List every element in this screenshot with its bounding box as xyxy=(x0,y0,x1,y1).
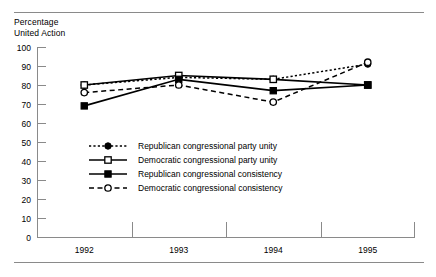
legend-marker xyxy=(105,157,111,163)
x-axis-tick-label: 1993 xyxy=(149,245,209,255)
y-axis-tick-label: 70 xyxy=(5,100,31,110)
y-axis-tick-label: 80 xyxy=(5,81,31,91)
data-point-marker xyxy=(176,74,182,80)
y-axis-title: Percentage United Action xyxy=(14,17,65,38)
plot-right-tick xyxy=(414,222,415,237)
data-point-marker xyxy=(81,89,87,95)
x-axis-tick-mark xyxy=(226,222,227,237)
legend-swatch xyxy=(88,167,128,181)
data-point-marker xyxy=(270,88,276,94)
data-point-marker xyxy=(365,82,371,88)
legend-label: Republican congressional party unity xyxy=(138,141,277,151)
series-4 xyxy=(81,59,371,105)
y-axis-tick-mark xyxy=(37,142,46,143)
y-axis-tick-label: 60 xyxy=(5,119,31,129)
data-point-marker xyxy=(270,76,276,82)
y-axis-tick-label: 30 xyxy=(5,176,31,186)
legend-marker xyxy=(105,143,111,149)
y-axis-tick-label: 20 xyxy=(5,195,31,205)
data-point-marker xyxy=(270,76,276,82)
y-axis-tick-label: 10 xyxy=(5,214,31,224)
y-axis-tick-mark xyxy=(37,47,46,48)
y-axis-tick-mark xyxy=(37,199,46,200)
data-point-marker xyxy=(365,61,371,67)
series-line xyxy=(84,79,368,106)
y-axis-tick-mark xyxy=(37,66,46,67)
series-2 xyxy=(81,72,371,88)
y-axis-tick-mark xyxy=(37,104,46,105)
legend-marker xyxy=(105,185,111,191)
legend-item-3: Republican congressional consistency xyxy=(88,167,283,181)
bottom-rule xyxy=(14,262,424,263)
y-axis-tick-label: 90 xyxy=(5,62,31,72)
legend: Republican congressional party unityDemo… xyxy=(88,139,283,195)
legend-swatch xyxy=(88,153,128,167)
figure: Percentage United Action 010203040506070… xyxy=(0,0,436,277)
legend-item-2: Democratic congressional party unity xyxy=(88,153,283,167)
series-1 xyxy=(81,61,371,88)
data-point-marker xyxy=(365,82,371,88)
y-axis-tick-mark xyxy=(37,218,46,219)
top-rule xyxy=(14,12,424,13)
data-point-marker xyxy=(176,72,182,78)
y-axis-tick-label: 40 xyxy=(5,157,31,167)
data-point-marker xyxy=(365,59,371,65)
data-point-marker xyxy=(176,76,182,82)
y-axis-tick-mark xyxy=(37,180,46,181)
legend-label: Republican congressional consistency xyxy=(138,169,282,179)
data-point-marker xyxy=(81,82,87,88)
y-axis-tick-label: 0 xyxy=(5,233,31,243)
x-axis-tick-mark xyxy=(132,222,133,237)
legend-swatch xyxy=(88,181,128,195)
data-point-marker xyxy=(270,99,276,105)
x-axis-tick-label: 1992 xyxy=(54,245,114,255)
legend-swatch xyxy=(88,139,128,153)
legend-label: Democratic congressional party unity xyxy=(138,155,277,165)
legend-marker xyxy=(105,171,111,177)
y-axis-tick-mark xyxy=(37,123,46,124)
legend-item-1: Republican congressional party unity xyxy=(88,139,283,153)
y-axis-tick-label: 50 xyxy=(5,138,31,148)
x-axis-line xyxy=(37,237,415,238)
series-3 xyxy=(81,76,371,109)
series-line xyxy=(84,76,368,86)
x-axis-tick-mark xyxy=(321,222,322,237)
y-axis-tick-mark xyxy=(37,161,46,162)
data-point-marker xyxy=(176,82,182,88)
x-axis-tick-label: 1994 xyxy=(243,245,303,255)
legend-label: Democratic congressional consistency xyxy=(138,183,283,193)
series-line xyxy=(84,64,368,85)
legend-item-4: Democratic congressional consistency xyxy=(88,181,283,195)
x-axis-tick-label: 1995 xyxy=(338,245,398,255)
y-axis-tick-mark xyxy=(37,85,46,86)
data-point-marker xyxy=(81,82,87,88)
series-line xyxy=(84,62,368,102)
y-axis-tick-label: 100 xyxy=(5,43,31,53)
data-point-marker xyxy=(81,103,87,109)
